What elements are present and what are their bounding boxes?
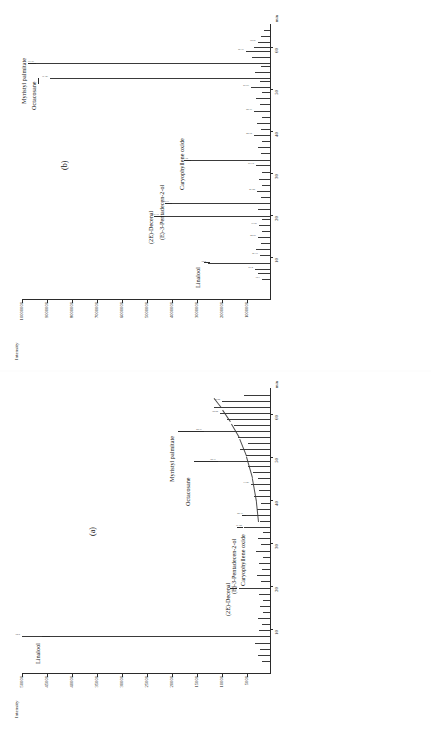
panel-b-xtick: 20 [274,216,279,221]
panel-b-ytick-mark [222,299,223,303]
spectrum-peak [258,42,270,43]
peak-time-label: 10.35 [252,252,258,255]
spectrum-peak [22,636,270,637]
spectrum-peak [262,569,270,570]
panel-b-ytick: 1000000 [244,302,249,356]
spectrum-peak [208,263,270,264]
spectrum-peak [244,395,270,396]
spectrum-peak [255,72,270,73]
spectrum-peak [258,618,270,619]
spectrum-peak [259,630,270,631]
spectrum-peak [234,425,270,426]
panel-a-ytick: 50000 [19,676,24,716]
panel-b-ytick-mark [247,299,248,303]
panel-b-x-axis-line [270,24,271,300]
panel-a-xtick: 10 [274,630,279,635]
panel-b-xtick: 50 [274,90,279,95]
peak-time-label: 4.81 [255,276,260,279]
spectrum-peak [259,490,270,491]
panel-b-ytick: 9000000 [44,302,49,356]
spectrum-peak [254,111,270,112]
panel-a-ytick-mark [97,673,98,677]
panel-a-ytick-mark [147,673,148,677]
spectrum-peak [258,655,270,656]
annotation-myristyl-palmitate: Myristyl palmitate [168,436,175,482]
spectrum-peak [255,269,270,270]
panel-b-ytick-mark [97,299,98,303]
spectrum-peak [259,179,270,180]
spectrum-peak [260,521,270,522]
panel-b: Intensity 10000000 9000000 8000000 70000… [0,0,431,370]
baseline-hump-seg [222,410,231,422]
annotation-leader [184,160,191,161]
spectrum-peak [263,600,270,601]
panel-a-letter: (a) [88,527,97,536]
spectrum-peak [256,249,270,250]
panel-b-xtick-mark [270,47,273,48]
panel-a-ytick: 5000 [244,676,249,716]
annotation-myristyl-palmitate: Myristyl palmitate [20,58,27,104]
panel-b-xtick-mark [270,215,273,216]
panel-b-ytick-mark [197,299,198,303]
spectrum-peak [260,606,270,607]
panel-a-ytick-mark [122,673,123,677]
annotation-caryophyllene-oxide: Caryophyllene oxide [178,138,185,190]
panel-a-xtick-mark [270,629,273,630]
panel-b-xtick: 60 [274,48,279,53]
panel-b-xtick-mark [270,89,273,90]
peak-time-label: 15.07 [251,222,257,225]
panel-b-ytick: 8000000 [69,302,74,356]
spectrum-peak [252,57,270,58]
spectrum-peak [260,81,270,82]
panel-a-plot: Intensity 50000 45000 40000 35000 30000 … [8,378,308,722]
panel-a-rotated-canvas: Intensity 50000 45000 40000 35000 30000 … [8,378,308,722]
panel-b-x-axis-unit: min [274,15,279,22]
spectrum-peak [262,661,270,662]
panel-b-ytick-mark [122,299,123,303]
peak-time-label: 8.60 [15,633,20,636]
panel-b-ytick: 3000000 [194,302,199,356]
spectrum-peak [246,51,270,52]
spectrum-peak [262,279,270,280]
spectrum-peak [204,431,270,432]
figure-page: Intensity 10000000 9000000 8000000 70000… [0,0,431,729]
spectrum-peak [240,449,270,450]
panel-a-ytick: 30000 [119,676,124,716]
panel-a-xtick-mark [270,586,273,587]
peak-time-label: 22.36 [249,188,255,191]
panel-b-ytick-mark [172,299,173,303]
peak-time-label: 47.52 [196,428,202,431]
baseline-hump-seg [239,439,247,456]
spectrum-peak [190,160,270,161]
panel-a-ytick: 35000 [94,676,99,716]
peak-time-label: 28.43 [236,524,242,527]
spectrum-peak [262,624,270,625]
spectrum-peak [261,129,270,130]
spectrum-peak [222,401,270,402]
spectrum-peak [261,581,270,582]
panel-b-ytick-mark [47,299,48,303]
spectrum-peak [263,557,270,558]
annotation-leader [237,527,243,528]
spectrum-peak [262,117,270,118]
panel-a-xtick-mark [270,414,273,415]
spectrum-peak [258,237,270,238]
spectrum-peak [260,255,270,256]
panel-b-plot: Intensity 10000000 9000000 8000000 70000… [8,10,308,362]
spectrum-peak [263,612,270,613]
panel-a-xtick: 20 [274,587,279,592]
spectrum-peak [257,123,270,124]
spectrum-peak [260,104,270,105]
annotation-leader [38,78,39,84]
spectrum-peak [261,503,270,504]
spectrum-peak [261,243,270,244]
spectrum-peak [161,216,270,217]
annotation-leader [242,515,246,516]
spectrum-peak [262,231,270,232]
spectrum-peak [238,437,270,438]
peak-time-label: 12.66 [250,234,256,237]
panel-a-ytick-mark [222,673,223,677]
spectrum-peak [259,563,270,564]
spectrum-peak [214,407,270,408]
spectrum-peak [262,219,270,220]
